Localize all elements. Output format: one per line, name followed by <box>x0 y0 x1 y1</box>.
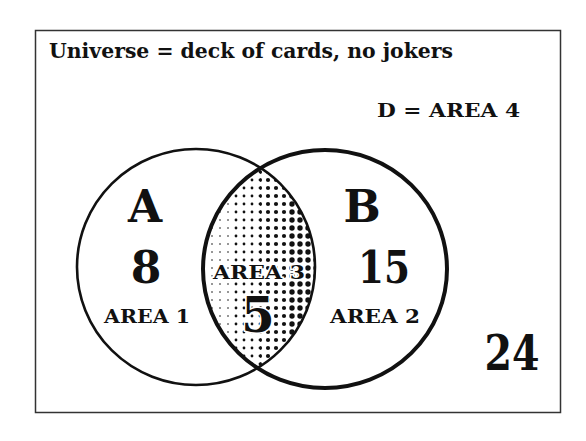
intersection-count: 5 <box>241 287 274 343</box>
set-b-name: B <box>343 181 380 232</box>
universe-title: Universe = deck of cards, no jokers <box>49 38 453 63</box>
venn-diagram-canvas: Universe = deck of cards, no jokers D = … <box>0 0 586 441</box>
set-b-area-label: AREA 2 <box>329 305 420 327</box>
venn-diagram-figure: Universe = deck of cards, no jokers D = … <box>0 0 586 441</box>
set-b-count: 15 <box>358 242 410 293</box>
set-a-area-label: AREA 1 <box>103 305 190 327</box>
set-a-name: A <box>127 181 163 232</box>
set-a-count: 8 <box>131 242 162 293</box>
outside-count: 24 <box>485 325 540 381</box>
intersection-area-label: AREA 3 <box>212 261 305 283</box>
complement-label: D = AREA 4 <box>377 99 520 121</box>
